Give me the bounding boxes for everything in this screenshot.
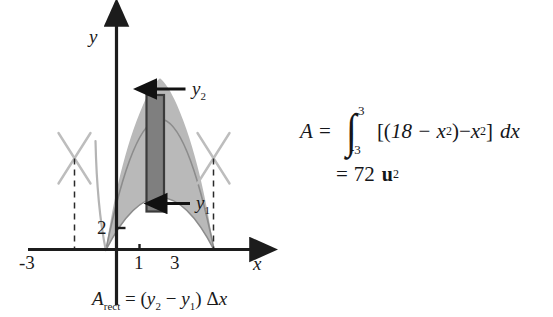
caption-minus: − bbox=[161, 288, 181, 309]
caption-A-sub: rect bbox=[104, 300, 120, 312]
integrand-term2-base: x bbox=[471, 119, 480, 144]
integral-group: ∫ 3 -3 bbox=[341, 105, 375, 157]
representative-rectangle bbox=[147, 95, 165, 212]
y-axis-label: y bbox=[89, 26, 97, 48]
equation-line-2: = 72 u2 bbox=[300, 158, 545, 190]
label-y2-sub: 2 bbox=[200, 90, 206, 102]
equation-line-1: A = ∫ 3 -3 [(18 − x2) − x2]dx bbox=[300, 104, 545, 158]
caption-y1: y bbox=[181, 288, 190, 309]
differential-dx: dx bbox=[493, 119, 520, 144]
integrand-open-bracket: [( bbox=[377, 119, 391, 144]
integral-lower-limit: -3 bbox=[350, 142, 361, 158]
equation-result-unit-exponent: 2 bbox=[393, 167, 399, 182]
caption-A: A bbox=[92, 288, 104, 309]
label-y1-sub: 1 bbox=[204, 204, 210, 216]
x-tick-label-neg3: -3 bbox=[19, 252, 35, 274]
integrand-close-paren: ) bbox=[452, 119, 459, 144]
x-tick-label-3: 3 bbox=[170, 252, 180, 274]
equation-lhs-A: A bbox=[300, 119, 313, 144]
label-y2: y2 bbox=[192, 78, 206, 102]
integrand-close-bracket: ] bbox=[486, 119, 493, 144]
rectangle-area-caption: Arect = (y2 − y1) Δx bbox=[92, 288, 227, 312]
caption-dx: x bbox=[219, 288, 228, 309]
x-axis-label: x bbox=[253, 253, 261, 275]
integrand-minus: − bbox=[459, 119, 471, 144]
integrand-term1-base: 18 − x bbox=[391, 119, 446, 144]
equation-equals-2: = bbox=[336, 162, 354, 187]
x-tick-label-1: 1 bbox=[134, 252, 144, 274]
integral-upper-limit: 3 bbox=[358, 103, 365, 119]
equation-equals-1: = bbox=[313, 119, 337, 144]
label-y1: y1 bbox=[196, 192, 210, 216]
equation-result-unit: u bbox=[375, 163, 393, 186]
caption-close-delta: ) Δ bbox=[195, 288, 218, 309]
equation-result-value: 72 bbox=[354, 162, 375, 187]
y-tick-label-2: 2 bbox=[97, 217, 107, 239]
integral-equation-block: A = ∫ 3 -3 [(18 − x2) − x2]dx = 72 u2 bbox=[300, 104, 545, 190]
caption-equals: = ( bbox=[120, 288, 147, 309]
